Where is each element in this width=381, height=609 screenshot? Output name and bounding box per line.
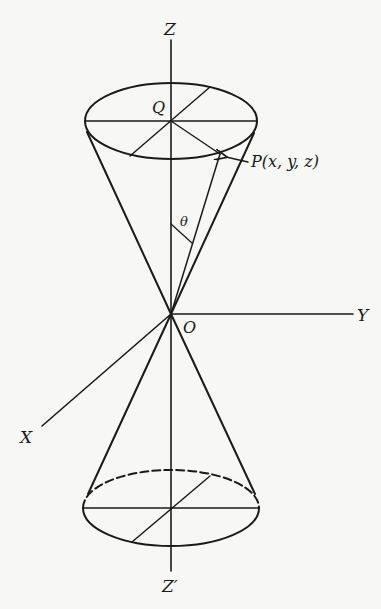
q-to-p-radius xyxy=(171,121,220,154)
z-axis-label: Z xyxy=(163,19,177,39)
theta-label: θ xyxy=(180,214,188,229)
x-axis-line xyxy=(42,314,171,426)
y-axis-label: Y xyxy=(357,305,370,325)
lower-left-generator xyxy=(88,314,171,494)
labels: Z Z′ Y X O Q P(x, y, z) θ xyxy=(18,19,370,596)
x-axis-label: X xyxy=(18,427,33,447)
cone-diagram: Z Z′ Y X O Q P(x, y, z) θ xyxy=(0,0,381,609)
z-prime-label: Z′ xyxy=(161,576,178,596)
p-arrow xyxy=(226,157,248,162)
o-to-p-generator xyxy=(171,154,220,314)
lower-right-generator xyxy=(171,314,255,494)
point-p-label: P(x, y, z) xyxy=(250,152,319,171)
q-label: Q xyxy=(152,98,165,117)
origin-label: O xyxy=(183,318,196,337)
